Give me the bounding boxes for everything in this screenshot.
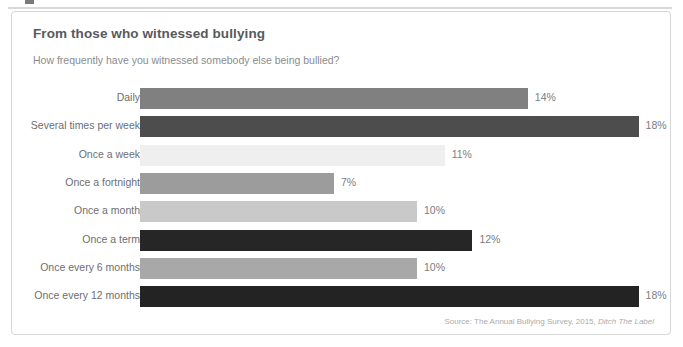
bar-value-label: 7% [341, 176, 356, 188]
source-attribution: Source: The Annual Bullying Survey, 2015… [444, 317, 654, 326]
bar-track: 18% [140, 116, 670, 137]
bar-track: 14% [140, 88, 670, 109]
source-publisher: Ditch The Label [598, 317, 654, 326]
bar-category-label: Once a month [0, 204, 140, 216]
bar-category-label: Once a fortnight [0, 176, 140, 188]
bar-fill [140, 145, 445, 166]
bar-fill [140, 286, 639, 307]
bar-row: Several times per week18% [12, 116, 670, 137]
bar-track: 7% [140, 173, 670, 194]
bar-chart-plot: Daily14%Several times per week18%Once a … [12, 88, 670, 316]
bar-fill [140, 201, 417, 222]
bar-value-label: 11% [452, 148, 472, 160]
bar-row: Once a week11% [12, 145, 670, 166]
bar-row: Once every 12 months18% [12, 286, 670, 307]
bar-fill [140, 116, 639, 137]
bar-row: Once a term12% [12, 230, 670, 251]
bar-row: Once a month10% [12, 201, 670, 222]
bar-category-label: Once a week [0, 148, 140, 160]
bar-fill [140, 173, 334, 194]
bar-value-label: 12% [479, 233, 500, 245]
page-title: From those who witnessed bullying [33, 26, 265, 41]
bar-category-label: Once a term [0, 233, 140, 245]
bar-value-label: 18% [646, 289, 667, 301]
bar-fill [140, 258, 417, 279]
bar-track: 10% [140, 201, 670, 222]
bar-value-label: 10% [424, 261, 445, 273]
bar-track: 12% [140, 230, 670, 251]
bar-category-label: Once every 12 months [0, 289, 140, 301]
top-divider [8, 7, 672, 9]
bar-row: Once a fortnight7% [12, 173, 670, 194]
source-prefix: Source: The Annual Bullying Survey, 2015… [444, 317, 598, 326]
bar-value-label: 14% [535, 91, 556, 103]
bar-category-label: Several times per week [0, 119, 140, 131]
bar-row: Once every 6 months10% [12, 258, 670, 279]
bar-value-label: 10% [424, 204, 445, 216]
bar-row: Daily14% [12, 88, 670, 109]
bar-fill [140, 230, 472, 251]
bar-track: 11% [140, 145, 670, 166]
top-marker-icon [25, 0, 34, 4]
page-top-strip [0, 0, 683, 9]
chart-card: From those who witnessed bullying How fr… [11, 11, 671, 335]
bar-category-label: Once every 6 months [0, 261, 140, 273]
bar-category-label: Daily [0, 91, 140, 103]
bar-track: 10% [140, 258, 670, 279]
chart-subtitle: How frequently have you witnessed somebo… [33, 54, 339, 66]
bar-track: 18% [140, 286, 670, 307]
bar-fill [140, 88, 528, 109]
bar-value-label: 18% [646, 119, 667, 131]
